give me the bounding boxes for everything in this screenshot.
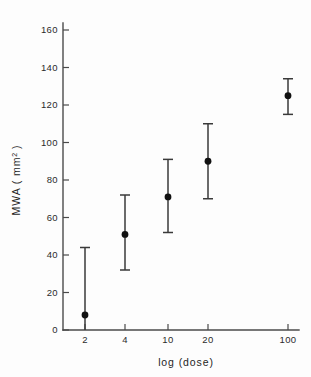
y-tick-label-160: 160 xyxy=(41,24,58,35)
y-tick-label-140: 140 xyxy=(41,62,58,73)
marker-dot xyxy=(122,231,129,238)
y-tick-label-20: 20 xyxy=(47,287,58,298)
marker-dot xyxy=(285,92,292,99)
x-tick-label-4: 4 xyxy=(122,334,128,345)
plot-background xyxy=(0,0,311,377)
y-tick-label-100: 100 xyxy=(41,137,58,148)
x-tick-label-20: 20 xyxy=(202,334,213,345)
y-tick-label-40: 40 xyxy=(47,249,58,260)
scatter-plot-with-error-bars: 020406080100120140160 241020100 MWA ( mm… xyxy=(0,0,311,377)
x-axis-title: log (dose) xyxy=(158,356,214,368)
y-axis-title-close: ) xyxy=(10,145,22,153)
y-tick-label-80: 80 xyxy=(47,174,58,185)
y-tick-label-120: 120 xyxy=(41,99,58,110)
x-tick-label-100: 100 xyxy=(279,334,296,345)
marker-dot xyxy=(165,193,172,200)
y-tick-label-60: 60 xyxy=(47,212,58,223)
marker-dot xyxy=(205,158,212,165)
x-tick-label-2: 2 xyxy=(82,334,88,345)
x-tick-label-10: 10 xyxy=(162,334,173,345)
chart-page: 020406080100120140160 241020100 MWA ( mm… xyxy=(0,0,311,377)
y-axis-title-base: MWA ( mm xyxy=(10,157,22,216)
y-tick-label-0: 0 xyxy=(52,324,58,335)
marker-dot xyxy=(82,312,89,319)
